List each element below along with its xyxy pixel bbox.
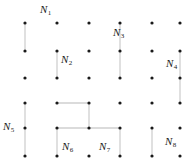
region-label-base: N — [165, 135, 172, 147]
lattice-dot — [150, 76, 153, 79]
region-label-N1: N1 — [40, 4, 51, 15]
region-label-base: N — [3, 120, 10, 132]
lattice-dot — [118, 76, 121, 79]
lattice-dot — [23, 101, 26, 104]
lattice-dot — [118, 154, 121, 157]
region-label-base: N — [40, 3, 47, 15]
lattice-dot — [23, 154, 26, 157]
lattice-dot — [23, 126, 26, 129]
region-label-base: N — [166, 57, 173, 69]
lattice-dot — [23, 49, 26, 52]
diagram-canvas — [0, 0, 190, 167]
region-label-subscript: 3 — [121, 32, 125, 40]
lattice-dot — [55, 76, 58, 79]
lattice-dot — [55, 101, 58, 104]
lattice-dot — [178, 21, 181, 24]
region-label-base: N — [61, 53, 68, 65]
region-label-base: N — [62, 140, 69, 152]
lattice-dot — [87, 21, 90, 24]
lattice-dot — [118, 21, 121, 24]
region-label-N5: N5 — [3, 121, 14, 132]
lattice-dot — [55, 21, 58, 24]
lattice-dot — [23, 76, 26, 79]
region-label-base: N — [99, 140, 106, 152]
lattice-dots — [23, 21, 181, 157]
region-label-N4: N4 — [166, 58, 177, 69]
region-label-subscript: 4 — [174, 63, 178, 71]
lattice-dot — [87, 126, 90, 129]
lattice-dot — [178, 126, 181, 129]
lattice-dot — [87, 154, 90, 157]
region-segments — [25, 23, 180, 156]
lattice-dot — [178, 49, 181, 52]
lattice-dot — [55, 154, 58, 157]
region-label-N8: N8 — [165, 136, 176, 147]
lattice-dot — [23, 21, 26, 24]
lattice-dot — [150, 101, 153, 104]
lattice-dot — [150, 49, 153, 52]
lattice-dot — [150, 126, 153, 129]
region-label-subscript: 7 — [107, 146, 111, 154]
lattice-dot — [178, 154, 181, 157]
lattice-dot — [87, 76, 90, 79]
region-label-N3: N3 — [113, 27, 124, 38]
region-label-N6: N6 — [62, 141, 73, 152]
lattice-dot — [178, 76, 181, 79]
lattice-dot — [87, 101, 90, 104]
lattice-dot — [150, 154, 153, 157]
lattice-dot — [118, 126, 121, 129]
lattice-dot — [118, 49, 121, 52]
region-label-subscript: 5 — [11, 126, 15, 134]
lattice-dot — [178, 101, 181, 104]
region-label-subscript: 1 — [48, 9, 52, 17]
region-label-subscript: 2 — [69, 59, 73, 67]
lattice-dot — [55, 49, 58, 52]
lattice-diagram: N1N2N3N4N5N6N7N8 — [0, 0, 190, 167]
lattice-dot — [87, 49, 90, 52]
lattice-dot — [55, 126, 58, 129]
region-label-N7: N7 — [99, 141, 110, 152]
region-label-base: N — [113, 26, 120, 38]
lattice-dot — [118, 101, 121, 104]
region-label-subscript: 6 — [70, 146, 74, 154]
lattice-dot — [150, 21, 153, 24]
region-label-subscript: 8 — [173, 141, 177, 149]
region-label-N2: N2 — [61, 54, 72, 65]
